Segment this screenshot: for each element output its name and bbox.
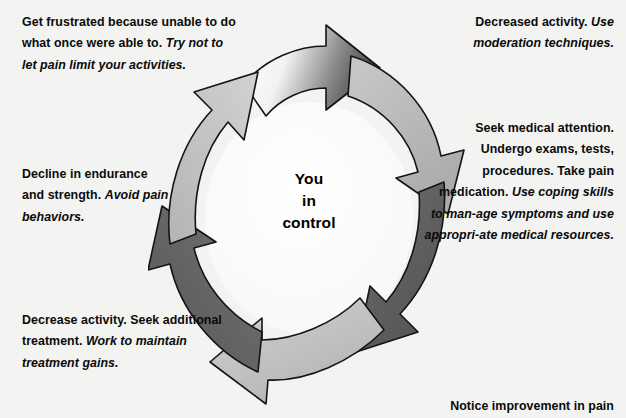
label-decrease-activity: Decrease activity. Seek additional treat… [22, 310, 237, 374]
label-decline-endurance: Decline in endurance and strength. Avoid… [22, 164, 172, 228]
label-notice-improvement: Notice improvement in pain [364, 396, 614, 417]
label-decreased-activity-bold: Decreased activity. [475, 15, 587, 29]
label-decreased-activity: Decreased activity. Use moderation techn… [409, 12, 614, 55]
diagram-canvas: You in control Get frustrated because un… [0, 0, 626, 418]
label-notice-improvement-bold: Notice improvement in pain [450, 399, 614, 413]
label-seek-medical-attention: Seek medical attention. Undergo exams, t… [424, 118, 614, 247]
label-get-frustrated: Get frustrated because unable to do what… [22, 12, 237, 76]
